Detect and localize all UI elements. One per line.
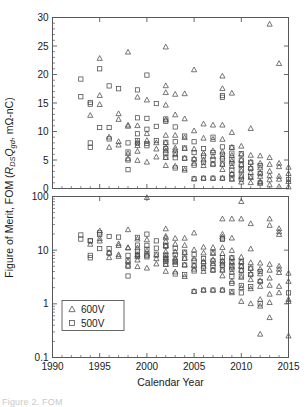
triangle-up-icon <box>182 235 187 240</box>
triangle-up-icon <box>239 254 244 259</box>
triangle-up-icon <box>163 163 168 168</box>
triangle-up-icon <box>192 247 197 252</box>
square-icon <box>107 125 111 129</box>
triangle-up-icon <box>248 260 253 265</box>
lower-y-ticklabel: 100 <box>32 191 49 202</box>
triangle-up-icon <box>248 180 253 185</box>
triangle-up-icon <box>248 301 253 306</box>
triangle-up-icon <box>276 284 281 289</box>
square-icon <box>173 140 177 144</box>
lower-panel: 0.1110100199019952000200520102015 <box>32 191 300 372</box>
square-icon <box>126 253 130 257</box>
square-icon <box>88 145 92 149</box>
square-icon <box>126 274 130 278</box>
triangle-up-icon <box>267 300 272 305</box>
upper-y-ticklabel: 15 <box>37 98 49 109</box>
triangle-up-icon <box>267 315 272 320</box>
triangle-up-icon <box>182 116 187 121</box>
square-icon <box>88 100 92 104</box>
triangle-up-icon <box>135 148 140 153</box>
x-ticklabel: 2010 <box>230 361 253 372</box>
triangle-up-icon <box>107 144 112 149</box>
triangle-up-icon <box>267 267 272 272</box>
triangle-up-icon <box>144 237 149 242</box>
triangle-up-icon <box>97 102 102 107</box>
square-icon <box>88 141 92 145</box>
square-icon <box>220 93 224 97</box>
triangle-up-icon <box>201 135 206 140</box>
square-icon <box>88 102 92 106</box>
triangle-up-icon <box>267 21 272 26</box>
triangle-up-icon <box>267 275 272 280</box>
x-ticklabel: 1990 <box>41 361 64 372</box>
upper-y-ticklabel: 30 <box>37 12 49 23</box>
triangle-up-icon <box>144 265 149 270</box>
triangle-up-icon <box>267 291 272 296</box>
square-icon <box>98 67 102 71</box>
lower-y-ticklabel: 1 <box>43 298 49 309</box>
triangle-up-icon <box>229 248 234 253</box>
square-icon <box>145 116 149 120</box>
square-icon <box>79 237 83 241</box>
square-icon <box>135 132 139 136</box>
triangle-up-icon <box>220 122 225 127</box>
triangle-up-icon <box>154 146 159 151</box>
legend-label: 500V <box>81 318 105 329</box>
triangle-up-icon <box>163 133 168 138</box>
figure-svg: 0510152025300.11101001990199520002005201… <box>0 0 307 407</box>
triangle-up-icon <box>97 93 102 98</box>
triangle-up-icon <box>220 167 225 172</box>
triangle-up-icon <box>163 226 168 231</box>
triangle-up-icon <box>267 162 272 167</box>
square-icon <box>239 291 243 295</box>
triangle-up-icon <box>239 199 244 204</box>
triangle-up-icon <box>210 245 215 250</box>
triangle-up-icon <box>163 90 168 95</box>
triangle-up-icon <box>135 94 140 99</box>
triangle-up-icon <box>173 236 178 241</box>
triangle-up-icon <box>220 251 225 256</box>
triangle-up-icon <box>201 121 206 126</box>
triangle-up-icon <box>116 117 121 122</box>
triangle-up-icon <box>258 284 263 289</box>
triangle-up-icon <box>192 128 197 133</box>
triangle-up-icon <box>229 216 234 221</box>
square-icon <box>154 124 158 128</box>
triangle-up-icon <box>182 91 187 96</box>
triangle-up-icon <box>248 277 253 282</box>
lower-y-ticklabel: 10 <box>37 245 49 256</box>
triangle-up-icon <box>267 262 272 267</box>
triangle-up-icon <box>248 152 253 157</box>
figure-root: 0510152025300.11101001990199520002005201… <box>0 0 307 407</box>
square-icon <box>126 168 130 172</box>
square-icon <box>154 101 158 105</box>
triangle-up-icon <box>144 97 149 102</box>
triangle-up-icon <box>220 137 225 142</box>
square-icon <box>135 88 139 92</box>
triangle-up-icon <box>97 56 102 61</box>
triangle-up-icon <box>125 49 130 54</box>
triangle-up-icon <box>173 91 178 96</box>
triangle-up-icon <box>258 297 263 302</box>
triangle-up-icon <box>258 153 263 158</box>
triangle-up-icon <box>163 44 168 49</box>
triangle-up-icon <box>135 158 140 163</box>
triangle-up-icon <box>239 299 244 304</box>
figure-caption: Figure 2. FOM <box>2 397 63 407</box>
triangle-up-icon <box>135 264 140 269</box>
square-icon <box>126 141 130 145</box>
triangle-up-icon <box>258 331 263 336</box>
triangle-up-icon <box>267 216 272 221</box>
square-icon <box>154 246 158 250</box>
triangle-up-icon <box>163 269 168 274</box>
y-axis-title: Figure of Merit, FOM (RDSQgd, mΩ-nC) <box>3 97 17 277</box>
triangle-up-icon <box>229 90 234 95</box>
square-icon <box>116 87 120 91</box>
square-icon <box>107 234 111 238</box>
triangle-up-icon <box>192 67 197 72</box>
x-ticklabel: 1995 <box>89 361 112 372</box>
legend-label: 600V <box>81 304 105 315</box>
square-icon <box>192 140 196 144</box>
square-icon <box>145 73 149 77</box>
triangle-up-icon <box>267 282 272 287</box>
